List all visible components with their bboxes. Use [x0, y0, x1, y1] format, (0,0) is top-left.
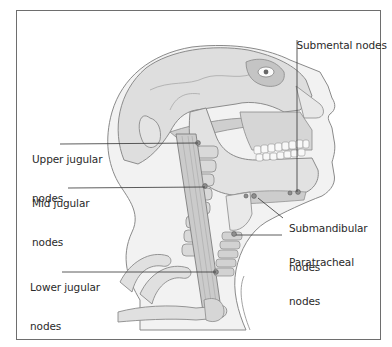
label-submental-nodes: Submental nodes: [290, 26, 387, 52]
label-mid-jugular-nodes: Mid jugular nodes: [32, 171, 89, 262]
label-paratracheal-nodes: Paratracheal nodes: [289, 230, 354, 321]
label-lower-jugular-nodes: Lower jugular nodes: [30, 255, 100, 346]
node-paratracheal: [232, 232, 237, 237]
node-submandibular: [252, 194, 257, 199]
node-mid-jugular: [203, 184, 208, 189]
node-submental: [296, 190, 301, 195]
